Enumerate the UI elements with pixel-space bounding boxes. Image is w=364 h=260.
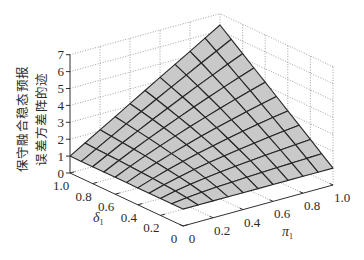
pi-tick [270,200,273,202]
delta-tick-label: 0.6 [98,199,115,214]
z-axis-label-line1: 保守融合稳态预报 [15,66,30,172]
z-axis-label: 保守融合稳态预报 误差方差阵的迹 [15,66,49,172]
pi-tick-label: 1.0 [334,190,350,205]
pi-tick-label: 0.8 [304,198,320,213]
pi-tick-label: 0.6 [274,206,291,221]
pi-tick [240,208,243,210]
pi-tick [180,224,183,226]
delta-tick [160,214,165,215]
z-tick-label: 1 [58,149,65,164]
delta-tick-label: 0.4 [121,210,138,225]
surface-mesh [70,25,333,209]
pi-tick [300,192,303,194]
pi-tick-label: 0.4 [244,215,261,230]
surface-plot: 0123456700.20.40.60.81.000.20.40.60.81.0… [0,0,364,260]
z-tick-label: 3 [58,115,65,130]
z-tick-label: 2 [58,132,65,147]
delta-tick [70,172,75,173]
delta-tick [93,182,98,183]
delta-tick [183,225,188,226]
z-axis-label-line2: 误差方差阵的迹 [34,72,49,165]
z-tick-label: 6 [58,64,65,79]
z-tick-label: 7 [58,47,65,62]
pi-tick-label: 0.2 [214,223,230,238]
delta-tick-label: 0 [171,231,178,246]
pi-tick [210,216,213,218]
delta-tick [138,204,143,205]
delta-tick [115,193,120,194]
pi-axis-label: π1 [282,224,293,241]
delta-tick-label: 1.0 [53,178,69,193]
z-tick-label: 5 [58,81,65,96]
z-tick-label: 4 [58,98,65,113]
delta-tick-label: 0.2 [143,220,159,235]
pi-tick-label: 0 [189,231,196,246]
pi-tick [330,183,333,185]
delta-tick-label: 0.8 [75,189,91,204]
